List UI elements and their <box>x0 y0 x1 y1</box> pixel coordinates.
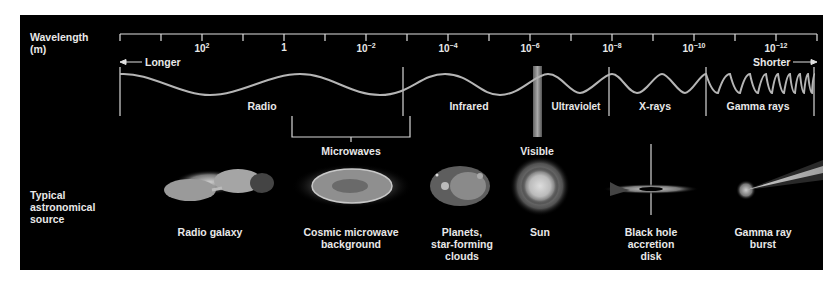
longer-label: Longer <box>145 56 181 68</box>
axis-ticks <box>120 34 817 41</box>
black-hole-image <box>603 144 699 215</box>
band-label-microwaves: Microwaves <box>321 145 381 157</box>
tick-label-1e-12: 10−12 <box>765 42 788 54</box>
gamma-ray-burst-image <box>736 160 823 200</box>
longer-arrowhead-icon <box>120 60 126 65</box>
axis-title: Wavelength(m) <box>30 31 89 55</box>
band-label-gamma: Gamma rays <box>726 100 789 112</box>
tick-label-1e2: 102 <box>194 42 209 54</box>
source-caption-gamma-burst: Gamma rayburst <box>734 226 791 250</box>
shorter-arrowhead-icon <box>811 60 817 65</box>
band-label-xrays: X-rays <box>639 100 671 112</box>
source-caption-cmb: Cosmic microwavebackground <box>303 226 398 250</box>
tick-label-1e-2: 10−2 <box>356 42 375 54</box>
wave-path <box>120 74 815 95</box>
tick-label-1e-6: 10−6 <box>520 42 539 54</box>
tick-label-1: 1 <box>281 42 287 53</box>
spectrum-graphics <box>0 0 836 285</box>
source-caption-radio-galaxy: Radio galaxy <box>178 226 243 238</box>
source-caption-planets: Planets,star-formingclouds <box>431 226 493 262</box>
band-label-visible: Visible <box>520 145 554 157</box>
tick-label-1e-8: 10−8 <box>602 42 621 54</box>
band-label-ultraviolet: Ultraviolet <box>552 101 601 113</box>
source-caption-sun: Sun <box>530 226 550 238</box>
shorter-label: Shorter <box>753 56 790 68</box>
tick-label-1e-4: 10−4 <box>438 42 457 54</box>
radio-galaxy-image <box>164 169 274 201</box>
band-label-infrared: Infrared <box>449 100 488 112</box>
band-label-radio: Radio <box>247 100 276 112</box>
planets-clouds-image <box>430 166 490 206</box>
microwave-bracket <box>292 116 410 137</box>
sun-image <box>510 156 570 216</box>
source-row-label: Typicalastronomicalsource <box>30 189 95 225</box>
source-caption-black-hole: Black holeaccretiondisk <box>625 226 678 262</box>
cmb-image <box>292 164 412 208</box>
tick-label-1e-10: 10−10 <box>683 42 706 54</box>
